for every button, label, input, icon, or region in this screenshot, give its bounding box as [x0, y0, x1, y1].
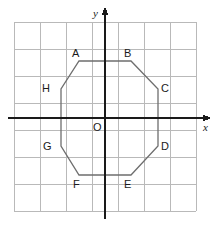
origin-label: O — [93, 122, 102, 133]
vertex-label-e: E — [124, 179, 131, 190]
vertex-label-a: A — [72, 48, 79, 59]
vertex-label-f: F — [73, 179, 80, 190]
vertex-label-b: B — [124, 48, 131, 59]
y-axis-label: y — [93, 8, 98, 19]
vertex-label-h: H — [42, 83, 50, 94]
axes — [8, 7, 211, 219]
figure-canvas — [0, 0, 215, 228]
vertex-label-c: C — [161, 83, 169, 94]
x-axis-label: x — [203, 122, 208, 133]
vertex-label-d: D — [161, 141, 169, 152]
vertex-label-g: G — [43, 141, 52, 152]
coordinate-grid-figure: A B C D E F G H O x y — [0, 0, 215, 228]
